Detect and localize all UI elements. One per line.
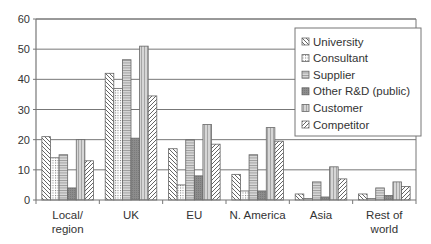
bar bbox=[85, 161, 94, 200]
bar bbox=[177, 185, 186, 200]
bar bbox=[338, 179, 347, 200]
x-category-label: Rest ofworld bbox=[366, 209, 403, 235]
legend-swatch-icon bbox=[302, 71, 309, 78]
bar bbox=[266, 128, 275, 200]
bar bbox=[42, 137, 51, 200]
x-category-label: EU bbox=[186, 209, 202, 221]
x-category-label: Local/region bbox=[52, 209, 84, 235]
bar bbox=[76, 140, 85, 200]
legend-item: Other R&D (public) bbox=[302, 85, 410, 97]
y-tick-label: 10 bbox=[18, 164, 30, 176]
y-axis-tick-labels: 0102030405060 bbox=[18, 13, 30, 206]
bar bbox=[194, 176, 203, 200]
x-axis-category-labels: Local/regionUKEUN. AmericaAsiaRest ofwor… bbox=[52, 209, 404, 235]
bar bbox=[312, 182, 321, 200]
bar bbox=[186, 140, 195, 200]
bar bbox=[50, 158, 59, 200]
y-tick-label: 50 bbox=[18, 43, 30, 55]
bar bbox=[114, 88, 123, 200]
bar bbox=[384, 195, 393, 200]
bar bbox=[212, 144, 221, 200]
bar bbox=[402, 186, 411, 200]
bar bbox=[122, 60, 131, 200]
bar bbox=[393, 182, 402, 200]
legend-item: Consultant bbox=[302, 52, 369, 64]
bar bbox=[330, 167, 339, 200]
y-tick-label: 0 bbox=[24, 194, 30, 206]
bar bbox=[295, 194, 304, 200]
legend-swatch-icon bbox=[302, 55, 309, 62]
bar bbox=[131, 138, 140, 200]
y-tick-label: 40 bbox=[18, 73, 30, 85]
legend: UniversityConsultantSupplierOther R&D (p… bbox=[295, 28, 421, 136]
bar bbox=[359, 194, 368, 200]
legend-label: Supplier bbox=[313, 69, 355, 81]
bar bbox=[249, 155, 258, 200]
y-tick-label: 20 bbox=[18, 134, 30, 146]
legend-label: University bbox=[313, 36, 364, 48]
legend-label: Other R&D (public) bbox=[313, 85, 410, 97]
legend-swatch-icon bbox=[302, 121, 309, 128]
x-category-label: N. America bbox=[230, 209, 287, 221]
x-category-label: UK bbox=[123, 209, 139, 221]
x-category-label: Asia bbox=[310, 209, 333, 221]
bar bbox=[240, 191, 249, 200]
bar bbox=[258, 191, 267, 200]
bar bbox=[376, 188, 385, 200]
legend-label: Customer bbox=[313, 102, 363, 114]
bar bbox=[105, 73, 114, 200]
y-tick-label: 30 bbox=[18, 104, 30, 116]
bar bbox=[140, 46, 149, 200]
legend-swatch-icon bbox=[302, 38, 309, 45]
bar bbox=[275, 141, 284, 200]
bar-chart: 0102030405060 Local/regionUKEUN. America… bbox=[0, 0, 431, 244]
bar bbox=[203, 125, 212, 200]
bar bbox=[148, 96, 157, 200]
bar bbox=[169, 149, 178, 200]
legend-label: Competitor bbox=[313, 119, 369, 131]
legend-swatch-icon bbox=[302, 88, 309, 95]
chart-canvas: 0102030405060 Local/regionUKEUN. America… bbox=[0, 0, 431, 244]
bar bbox=[232, 174, 241, 200]
legend-swatch-icon bbox=[302, 104, 309, 111]
y-tick-label: 60 bbox=[18, 13, 30, 25]
legend-item: Competitor bbox=[302, 119, 369, 131]
bar bbox=[59, 155, 68, 200]
bar bbox=[68, 188, 77, 200]
legend-label: Consultant bbox=[313, 52, 369, 64]
